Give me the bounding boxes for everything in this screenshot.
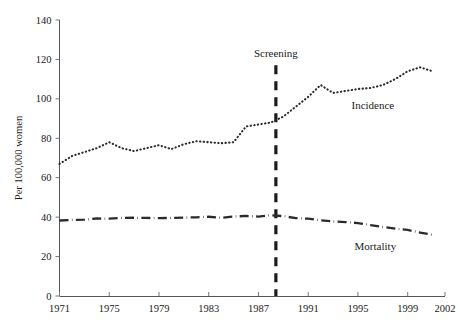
chart-container: 020406080100120140 197119751979198319871…: [0, 0, 461, 320]
y-tick-label: 0: [46, 291, 51, 302]
y-tick-label: 140: [36, 15, 52, 26]
mortality-series-line: [60, 215, 433, 235]
x-tick-label: 1979: [148, 303, 169, 314]
line-chart: 020406080100120140 197119751979198319871…: [0, 0, 461, 320]
screening-annotation-label: Screening: [254, 47, 298, 59]
y-tick-label: 60: [41, 172, 52, 183]
y-tick-label: 100: [36, 93, 52, 104]
x-tick-label: 1995: [347, 303, 368, 314]
x-tick-label: 1987: [248, 303, 269, 314]
y-tick-label: 40: [41, 212, 52, 223]
y-tick-label: 120: [36, 54, 52, 65]
x-tick-label: 2002: [435, 303, 456, 314]
x-tick-label: 1971: [49, 303, 70, 314]
x-tick-label: 1991: [298, 303, 319, 314]
y-axis-title: Per 100,000 women: [13, 115, 24, 200]
incidence-series-label: Incidence: [351, 99, 394, 111]
x-tick-label: 1999: [397, 303, 418, 314]
y-tick-label: 80: [41, 133, 52, 144]
incidence-series-line: [60, 67, 433, 164]
y-tick-label: 20: [41, 251, 52, 262]
y-axis-ticks: 020406080100120140: [36, 15, 60, 302]
x-tick-label: 1975: [99, 303, 120, 314]
x-axis-ticks: 197119751979198319871991199519992002: [49, 292, 456, 314]
x-tick-label: 1983: [198, 303, 219, 314]
mortality-series-label: Mortality: [355, 240, 397, 252]
